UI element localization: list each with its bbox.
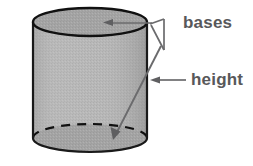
cylinder-top-base <box>33 8 147 36</box>
bases-leader-lower-diagonal <box>151 25 164 50</box>
label-height: height <box>191 71 243 88</box>
bases-leader-upper-diagonal <box>150 19 164 24</box>
cylinder-diagram-figure: bases height <box>0 0 253 166</box>
height-arrowhead-icon <box>150 77 160 84</box>
label-bases: bases <box>183 14 232 31</box>
